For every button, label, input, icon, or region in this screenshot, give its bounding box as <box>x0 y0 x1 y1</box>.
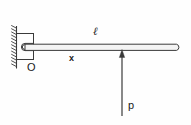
wall-hatching <box>12 26 17 67</box>
horizontal-beam <box>25 44 179 50</box>
beam-diagram-figure: ℓ x O p <box>0 0 191 125</box>
distance-coordinate-label: x <box>69 54 74 63</box>
hatched-fixed-wall <box>12 26 17 69</box>
origin-point-label: O <box>27 62 36 73</box>
beam-length-label: ℓ <box>93 26 98 37</box>
upward-force-arrow <box>119 50 124 117</box>
beam-body <box>25 44 179 50</box>
load-force-label: p <box>128 100 134 111</box>
